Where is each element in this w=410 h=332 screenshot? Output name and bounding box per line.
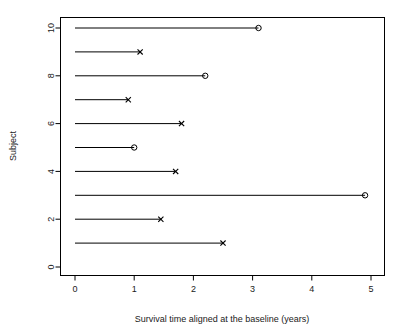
survival-plot-figure: 012345 0246810 Survival time aligned at …	[0, 0, 410, 332]
x-tick-label: 4	[309, 284, 314, 294]
y-tick-label: 0	[46, 264, 56, 269]
y-tick-label: 10	[46, 23, 56, 33]
figure-background	[0, 0, 410, 332]
x-tick-label: 5	[368, 284, 373, 294]
y-tick-label: 4	[46, 169, 56, 174]
y-tick-label: 2	[46, 217, 56, 222]
plot-canvas: 012345 0246810 Survival time aligned at …	[0, 0, 410, 332]
y-axis-title: Subject	[8, 130, 18, 161]
x-tick-label: 3	[250, 284, 255, 294]
x-tick-label: 1	[132, 284, 137, 294]
x-tick-label: 0	[72, 284, 77, 294]
x-axis-title: Survival time aligned at the baseline (y…	[135, 314, 310, 324]
x-tick-label: 2	[191, 284, 196, 294]
y-tick-label: 8	[46, 73, 56, 78]
y-tick-label: 6	[46, 121, 56, 126]
